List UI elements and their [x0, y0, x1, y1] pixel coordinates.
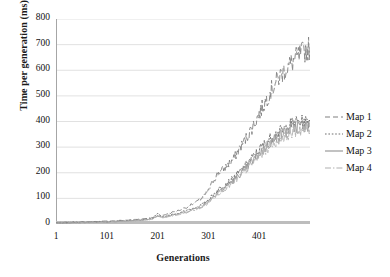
legend-key-dashed — [325, 112, 343, 122]
legend-label: Map 2 — [346, 128, 372, 139]
legend-item-4[interactable]: Map 4 — [325, 159, 390, 176]
legend-key-dotted — [325, 129, 343, 139]
y-tick-label: 500 — [20, 89, 50, 99]
series-line-1 — [56, 37, 310, 223]
plot-area — [56, 19, 310, 224]
legend-item-2[interactable]: Map 2 — [325, 125, 390, 142]
legend-key-solid — [325, 146, 343, 156]
y-tick-label: 200 — [20, 166, 50, 176]
x-tick-label: 401 — [239, 231, 279, 241]
y-tick-label: 700 — [20, 38, 50, 48]
y-tick-label: 300 — [20, 140, 50, 150]
legend-item-1[interactable]: Map 1 — [325, 108, 390, 125]
legend-item-3[interactable]: Map 3 — [325, 142, 390, 159]
x-tick-label: 1 — [36, 231, 76, 241]
x-tick-label: 301 — [188, 231, 228, 241]
chart-container: Time per generation (ms) Generations 010… — [0, 0, 390, 277]
y-axis-title: Time per generation (ms) — [18, 0, 29, 151]
series-line-2 — [56, 115, 310, 223]
legend-label: Map 1 — [346, 111, 372, 122]
legend-label: Map 4 — [346, 162, 372, 173]
series-line-3 — [56, 121, 310, 224]
y-tick-label: 100 — [20, 191, 50, 201]
y-tick-label: 800 — [20, 12, 50, 22]
x-tick-label: 101 — [87, 231, 127, 241]
y-tick-label: 400 — [20, 115, 50, 125]
x-axis-title: Generations — [55, 252, 311, 263]
y-tick-label: 600 — [20, 63, 50, 73]
chart-legend: Map 1Map 2Map 3Map 4 — [325, 108, 390, 176]
plot-svg — [56, 19, 310, 224]
legend-key-dashdot — [325, 163, 343, 173]
x-tick-label: 201 — [138, 231, 178, 241]
y-tick-label: 0 — [20, 217, 50, 227]
legend-label: Map 3 — [346, 145, 372, 156]
